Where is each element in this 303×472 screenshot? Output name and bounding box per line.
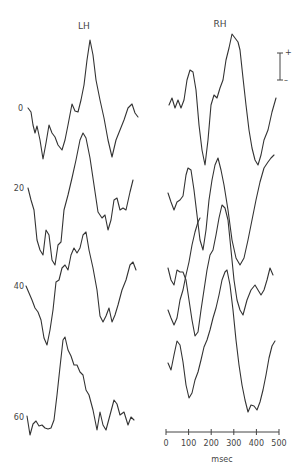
trace-lh-0 — [28, 40, 138, 159]
trace-rh-40 — [168, 205, 273, 336]
x-tick-200: 200 — [204, 439, 219, 448]
trace-lh-60 — [27, 337, 134, 435]
trace-rh-40b — [168, 218, 200, 325]
polarity-plus: + — [285, 48, 292, 57]
panel-title-rh: RH — [213, 19, 226, 29]
polarity-scale-bar: + – — [277, 48, 292, 85]
evoked-potential-figure: LH RH 0 20 40 60 + – 0100200300400500 ms… — [0, 0, 303, 472]
panel-title-lh: LH — [78, 21, 90, 31]
x-tick-0: 0 — [163, 439, 168, 448]
waveform-traces — [26, 34, 276, 435]
polarity-minus: – — [284, 76, 288, 85]
x-tick-400: 400 — [249, 439, 264, 448]
row-label-0: 0 — [18, 104, 23, 113]
x-tick-500: 500 — [271, 439, 286, 448]
x-axis-label: msec — [211, 455, 232, 464]
row-label-40: 40 — [14, 282, 24, 291]
time-axis: 0100200300400500 msec — [163, 429, 286, 464]
trace-rh-0 — [169, 34, 276, 165]
x-tick-100: 100 — [181, 439, 196, 448]
trace-lh-40 — [26, 232, 136, 345]
row-label-60: 60 — [14, 413, 24, 422]
row-label-20: 20 — [14, 184, 24, 193]
x-tick-300: 300 — [226, 439, 241, 448]
